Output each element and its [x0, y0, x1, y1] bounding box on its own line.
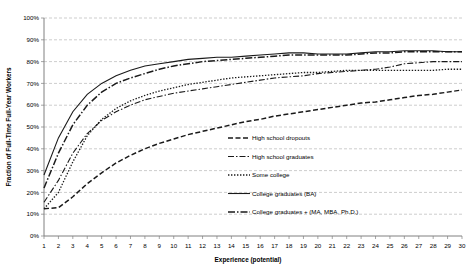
x-tick-label: 8 [143, 242, 147, 249]
y-tick-label: 80% [27, 58, 40, 65]
x-tick-label: 10 [170, 242, 177, 249]
y-tick-label: 70% [27, 80, 40, 87]
x-axis [44, 236, 462, 239]
x-axis-title-text: Experience (potential) [215, 256, 282, 264]
x-tick-label: 17 [271, 242, 278, 249]
series-line-1 [44, 62, 462, 203]
x-tick-label: 6 [114, 242, 118, 249]
x-tick-label: 5 [100, 242, 104, 249]
x-tick-label: 22 [343, 242, 350, 249]
y-tick-label: 100% [23, 14, 39, 21]
x-tick-label: 16 [257, 242, 264, 249]
y-tick-label: 50% [27, 123, 40, 130]
series-line-4 [44, 52, 462, 188]
data-series-group [44, 51, 462, 209]
x-tick-label: 15 [242, 242, 249, 249]
y-tick-label: 10% [27, 210, 40, 217]
x-tick-label: 18 [286, 242, 293, 249]
x-tick-label: 7 [129, 242, 133, 249]
x-tick-label: 26 [401, 242, 408, 249]
x-tick-label: 9 [158, 242, 162, 249]
x-tick-label: 2 [57, 242, 61, 249]
y-tick-label: 0% [30, 232, 39, 239]
x-tick-label: 25 [386, 242, 393, 249]
y-axis-tick-labels: 0%10%20%30%40%50%60%70%80%90%100% [23, 14, 39, 239]
legend-label: High school graduates [252, 153, 314, 160]
x-tick-label: 13 [214, 242, 221, 249]
x-tick-label: 3 [71, 242, 75, 249]
y-tick-label: 40% [27, 145, 40, 152]
gridlines [44, 18, 462, 214]
x-tick-label: 11 [185, 242, 192, 249]
x-tick-label: 20 [314, 242, 321, 249]
x-tick-label: 28 [430, 242, 437, 249]
x-tick-label: 19 [300, 242, 307, 249]
x-tick-label: 14 [228, 242, 235, 249]
x-tick-label: 23 [358, 242, 365, 249]
x-tick-label: 27 [415, 242, 422, 249]
legend-label: Some college [252, 171, 290, 178]
y-axis [41, 18, 44, 236]
chart-legend: High school dropoutsHigh school graduate… [228, 134, 358, 215]
legend-label: College graduates (BA) [252, 190, 316, 197]
x-tick-label: 12 [199, 242, 206, 249]
y-tick-label: 20% [27, 189, 40, 196]
y-axis-title: Fraction of Full-Time Full-Year Workers [5, 67, 12, 187]
y-tick-label: 60% [27, 101, 40, 108]
x-tick-label: 30 [459, 242, 466, 249]
x-axis-tick-labels: 1234567891011121314151617181920212223242… [42, 242, 466, 249]
x-tick-label: 29 [444, 242, 451, 249]
x-tick-label: 1 [42, 242, 46, 249]
x-tick-label: 24 [372, 242, 379, 249]
x-tick-label: 21 [329, 242, 336, 249]
x-tick-label: 4 [86, 242, 90, 249]
y-axis-title-text: Fraction of Full-Time Full-Year Workers [5, 67, 12, 187]
x-axis-title: Experience (potential) [215, 256, 282, 264]
line-chart: 0%10%20%30%40%50%60%70%80%90%100% 123456… [0, 0, 475, 268]
y-tick-label: 30% [27, 167, 40, 174]
legend-label: College graduates + (MA, MBA, Ph.D.) [252, 208, 358, 215]
legend-label: High school dropouts [252, 134, 310, 141]
chart-container: 0%10%20%30%40%50%60%70%80%90%100% 123456… [0, 0, 475, 268]
y-tick-label: 90% [27, 36, 40, 43]
